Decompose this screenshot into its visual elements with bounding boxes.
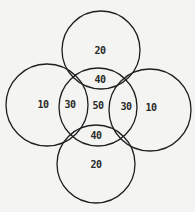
label-center-only: 50 [92, 100, 104, 111]
label-left-center: 30 [64, 99, 76, 110]
label-bottom-only: 20 [90, 159, 102, 170]
label-top-center: 40 [94, 74, 106, 85]
label-right-only: 10 [145, 102, 157, 113]
label-bottom-center: 40 [90, 130, 102, 141]
venn-diagram: 20 40 10 30 50 30 10 40 20 [0, 0, 195, 212]
label-right-center: 30 [120, 101, 132, 112]
label-left-only: 10 [37, 99, 49, 110]
label-top-only: 20 [94, 45, 106, 56]
